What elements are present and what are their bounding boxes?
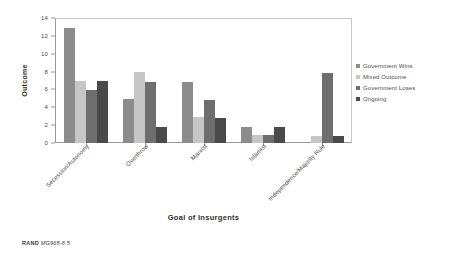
y-tick-mark bbox=[51, 89, 55, 90]
y-tick-label: 10 bbox=[41, 51, 48, 57]
bar-group bbox=[174, 18, 233, 143]
bar bbox=[193, 117, 204, 143]
y-tick-mark bbox=[51, 18, 55, 19]
y-tick-label: 6 bbox=[44, 86, 48, 92]
bar bbox=[75, 81, 86, 144]
legend-item[interactable]: Government Wins bbox=[356, 61, 448, 71]
x-axis-title: Goal of Insurgents bbox=[55, 213, 352, 222]
legend-label: Government Loses bbox=[363, 85, 415, 91]
figure-code: MG965-8.5 bbox=[41, 240, 70, 246]
y-tick-mark bbox=[51, 107, 55, 108]
chart-figure: 02468101214 Outcome Secession/AutonomyOv… bbox=[0, 0, 450, 260]
bar-group bbox=[234, 18, 293, 143]
y-tick-mark bbox=[51, 53, 55, 54]
y-tick-label: 12 bbox=[41, 33, 48, 39]
legend-swatch-icon bbox=[356, 97, 360, 101]
chart-legend: Government WinsMixed OutcomeGovernment L… bbox=[356, 61, 448, 105]
legend-swatch-icon bbox=[356, 75, 360, 79]
y-tick-label: 4 bbox=[44, 104, 48, 110]
bar bbox=[182, 82, 193, 143]
legend-item[interactable]: Government Loses bbox=[356, 83, 448, 93]
rand-brand: RAND bbox=[22, 240, 39, 246]
legend-label: Government Wins bbox=[363, 63, 413, 69]
y-tick-label: 14 bbox=[41, 15, 48, 21]
y-tick-label: 8 bbox=[44, 69, 48, 75]
figure-footer: RAND MG965-8.5 bbox=[22, 240, 70, 246]
bar bbox=[252, 135, 263, 143]
bar-groups bbox=[56, 18, 352, 143]
legend-swatch-icon bbox=[356, 64, 360, 68]
y-tick-mark bbox=[51, 125, 55, 126]
legend-item[interactable]: Mixed Outcome bbox=[356, 72, 448, 82]
legend-swatch-icon bbox=[356, 86, 360, 90]
x-axis-labels: Secession/AutonomyOverthrowMarxistIslami… bbox=[0, 143, 450, 213]
bar bbox=[134, 72, 145, 143]
y-tick-mark bbox=[51, 71, 55, 72]
y-axis-title-label: Outcome bbox=[21, 64, 28, 96]
legend-label: Ongoing bbox=[363, 96, 386, 102]
legend-item[interactable]: Ongoing bbox=[356, 94, 448, 104]
legend-label: Mixed Outcome bbox=[363, 74, 406, 80]
y-axis-title: Outcome bbox=[18, 18, 30, 143]
y-tick-mark bbox=[51, 35, 55, 36]
bar bbox=[311, 136, 322, 143]
bar bbox=[241, 127, 252, 143]
bar bbox=[64, 28, 75, 143]
y-tick-label: 2 bbox=[44, 122, 48, 128]
